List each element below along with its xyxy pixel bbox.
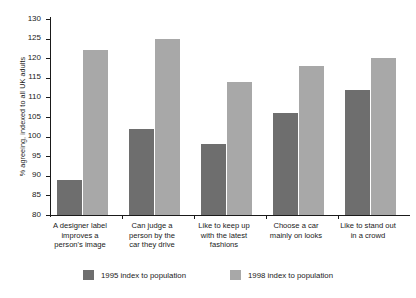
x-tick-mark [338, 215, 339, 219]
x-axis-category-label: Like to keep upwith the latestfashions [188, 221, 260, 250]
legend-item[interactable]: 1995 index to population [83, 270, 186, 280]
category-label-line: improves a [44, 231, 116, 241]
bar [83, 50, 108, 215]
category-label-line: fashions [188, 240, 260, 250]
legend-swatch [230, 270, 241, 280]
y-tick-label: 85 [32, 190, 41, 199]
y-tick-label: 130 [28, 14, 41, 23]
bar-chart: % agreeing, indexed to all UK adults 130… [0, 0, 416, 298]
bar [57, 180, 82, 215]
category-label-line: Can judge a [116, 221, 188, 231]
bar [129, 129, 154, 215]
bar [371, 58, 396, 215]
y-axis-title: % agreeing, indexed to all UK adults [18, 17, 27, 217]
category-label-line: Choose a car [260, 221, 332, 231]
category-label-line: Like to keep up [188, 221, 260, 231]
y-tick-label: 95 [32, 151, 41, 160]
category-label-line: person's image [44, 240, 116, 250]
x-tick-mark [194, 215, 195, 219]
bar [345, 90, 370, 215]
x-tick-mark [122, 215, 123, 219]
category-label-line: with the latest [188, 231, 260, 241]
category-label-line: mainly on looks [260, 231, 332, 241]
x-axis-category-label: Like to stand outin a crowd [332, 221, 404, 240]
legend-item[interactable]: 1998 index to population [230, 270, 333, 280]
bar [155, 39, 180, 215]
category-label-line: A designer label [44, 221, 116, 231]
y-tick-label: 125 [28, 33, 41, 42]
y-tick-label: 110 [28, 92, 41, 101]
legend-swatch [83, 270, 94, 280]
y-tick-label: 105 [28, 112, 41, 121]
bar [201, 144, 226, 215]
y-tick-label: 90 [32, 170, 41, 179]
y-tick-label: 115 [28, 72, 41, 81]
x-axis-category-label: A designer labelimproves aperson's image [44, 221, 116, 250]
chart-legend: 1995 index to population1998 index to po… [0, 270, 416, 280]
legend-label: 1995 index to population [101, 271, 186, 280]
legend-label: 1998 index to population [248, 271, 333, 280]
category-label-line: person by the [116, 231, 188, 241]
category-label-line: Like to stand out [332, 221, 404, 231]
x-axis-category-label: Can judge aperson by thecar they drive [116, 221, 188, 250]
y-tick-label: 80 [32, 210, 41, 219]
y-tick-label: 120 [28, 53, 41, 62]
category-label-line: car they drive [116, 240, 188, 250]
x-tick-mark [266, 215, 267, 219]
x-axis-category-label: Choose a carmainly on looks [260, 221, 332, 240]
y-tick-mark [46, 215, 50, 216]
x-axis-line [50, 215, 410, 216]
bar [227, 82, 252, 215]
bar [299, 66, 324, 215]
category-label-line: in a crowd [332, 231, 404, 241]
y-tick-label: 100 [28, 131, 41, 140]
plot-area [50, 19, 410, 215]
bar [273, 113, 298, 215]
